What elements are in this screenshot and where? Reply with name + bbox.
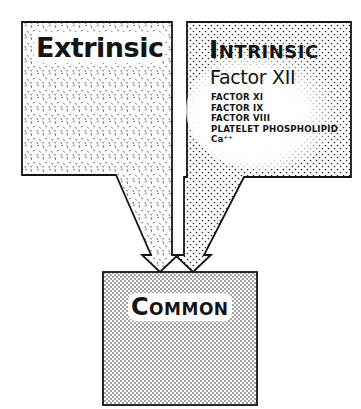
factor-xii-label: Factor XII [210,66,295,88]
factor-item: FACTOR XI [211,92,338,103]
intrinsic-factor-list: FACTOR XI FACTOR IX FACTOR VIII PLATELET… [211,92,338,145]
factor-item: FACTOR VIII [211,113,338,124]
factor-item: Ca⁺⁺ [211,134,338,145]
common-node [103,272,257,405]
intrinsic-title: Intrinsic [209,35,319,64]
extrinsic-title: Extrinsic [34,32,165,63]
factor-item: PLATELET PHOSPHOLIPID [211,124,338,135]
factor-item: FACTOR IX [211,103,338,114]
common-title: Common [128,293,232,321]
